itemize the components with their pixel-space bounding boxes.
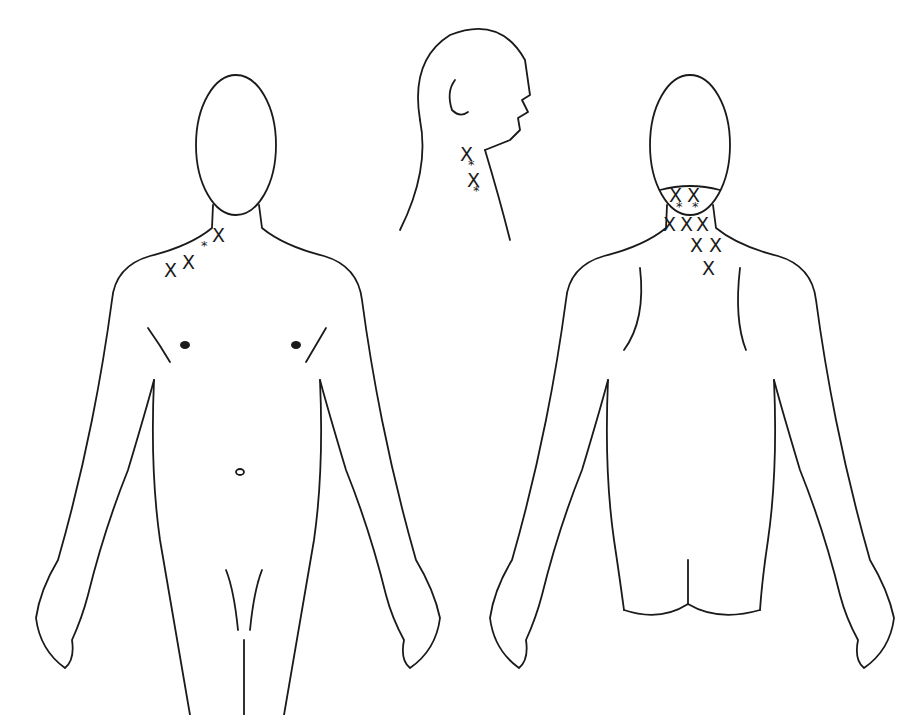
svg-text:X: X: [663, 213, 676, 235]
body-diagram: X X * X X * X * X X * * X X X X X X: [0, 0, 921, 715]
svg-text:*: *: [676, 199, 683, 214]
svg-text:X: X: [690, 234, 703, 256]
svg-text:X: X: [709, 234, 722, 256]
svg-text:X: X: [164, 259, 177, 281]
svg-text:X: X: [212, 224, 225, 246]
side-head-figure: [400, 29, 530, 240]
svg-text:*: *: [473, 183, 480, 198]
side-markers: X * X *: [460, 143, 480, 198]
svg-text:X: X: [182, 251, 195, 273]
svg-text:*: *: [692, 199, 699, 214]
svg-text:X: X: [702, 257, 715, 279]
svg-text:X: X: [680, 213, 693, 235]
back-body-figure: [490, 75, 894, 668]
front-body-figure: [36, 75, 440, 715]
front-markers: X X * X: [164, 224, 225, 281]
svg-text:*: *: [201, 238, 208, 253]
back-markers: X X * * X X X X X X: [663, 184, 722, 279]
svg-text:X: X: [696, 213, 709, 235]
